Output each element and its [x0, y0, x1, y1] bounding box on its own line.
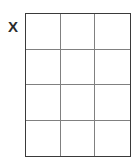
grid-cell-r2c3[interactable] — [95, 50, 130, 86]
grid-table[interactable] — [25, 13, 131, 157]
grid-cell-r3c3[interactable] — [95, 85, 130, 121]
grid-cell-r4c1[interactable] — [26, 121, 61, 157]
figure-canvas: X — [0, 0, 139, 166]
grid-row-label-x: X — [4, 17, 22, 37]
grid-cell-r1c3[interactable] — [95, 14, 130, 50]
grid-cell-r2c1[interactable] — [26, 50, 61, 86]
grid-cell-r3c2[interactable] — [61, 85, 96, 121]
grid-cell-r4c2[interactable] — [61, 121, 96, 157]
grid-cell-r2c2[interactable] — [61, 50, 96, 86]
grid-cell-r4c3[interactable] — [95, 121, 130, 157]
grid-cell-r1c1[interactable] — [26, 14, 61, 50]
grid-cell-r1c2[interactable] — [61, 14, 96, 50]
grid-cell-r3c1[interactable] — [26, 85, 61, 121]
